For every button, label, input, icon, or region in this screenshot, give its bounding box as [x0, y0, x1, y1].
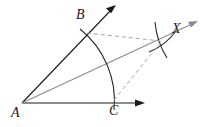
- ray-AB-line: [22, 9, 112, 103]
- ray-AB-arrowhead: [106, 5, 116, 13]
- vertex-label-B: B: [76, 8, 85, 22]
- vertex-label-X: X: [172, 22, 181, 36]
- ray-AC: [22, 100, 145, 107]
- ray-bisector-arrowhead: [188, 21, 198, 27]
- vertex-label-A: A: [11, 106, 20, 120]
- ray-AC-arrowhead: [135, 100, 145, 107]
- geometry-figure: A B C X: [0, 0, 203, 127]
- construction-canvas: [0, 0, 203, 127]
- dashed-B-to-X: [87, 33, 161, 41]
- ray-bisector-line: [22, 24, 193, 104]
- vertex-label-C: C: [109, 104, 118, 118]
- arc-BC: [80, 29, 114, 110]
- dashed-C-to-X: [114, 42, 161, 100]
